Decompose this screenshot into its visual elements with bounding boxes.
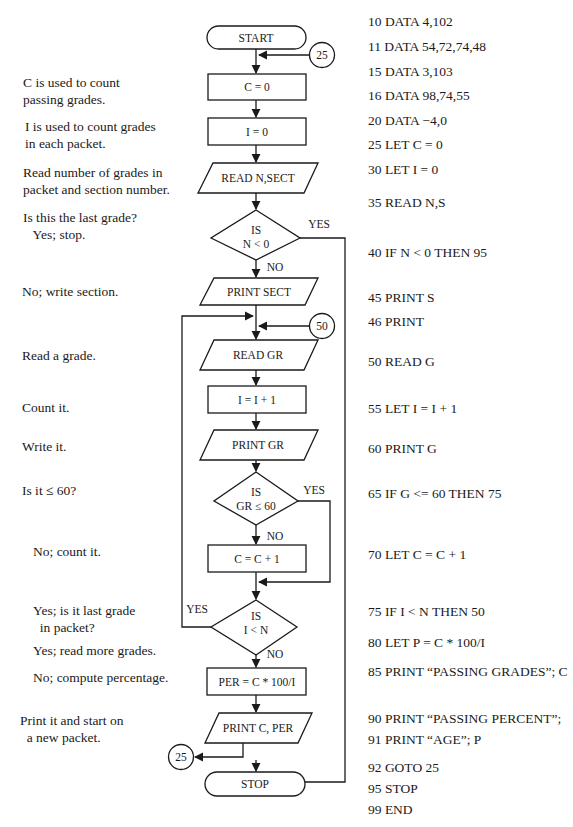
- program-line: 11 DATA 54,72,74,48: [368, 38, 486, 55]
- compute-per-label: PER = C * 100/I: [219, 676, 296, 688]
- program-line: 90 PRINT “PASSING PERCENT”;: [368, 710, 561, 727]
- program-line: 30 LET I = 0: [368, 161, 438, 178]
- annotation-last-in-packet: Yes; is it last grade in packet?: [33, 602, 135, 636]
- annotation-line: a new packet.: [20, 729, 124, 746]
- dec3-cond: I < N: [244, 624, 269, 636]
- program-line: 60 PRINT G: [368, 440, 437, 457]
- connector-50-label: 50: [316, 320, 328, 332]
- annotation-read-more: Yes; read more grades.: [33, 642, 156, 659]
- dec1-is: IS: [251, 224, 261, 236]
- program-line: 50 READ G: [368, 353, 435, 370]
- dec2-is: IS: [251, 486, 261, 498]
- annotation-i-purpose: I is used to count gradesin each packet.: [25, 118, 156, 152]
- annotation-read-n: Read number of grades inpacket and secti…: [23, 164, 170, 198]
- program-line: 46 PRINT: [368, 313, 424, 330]
- annotation-count-it: Count it.: [22, 399, 69, 416]
- annotation-line: packet and section number.: [23, 181, 170, 198]
- dec1-cond: N < 0: [243, 238, 270, 250]
- program-line: 20 DATA −4,0: [368, 112, 447, 129]
- program-line: 16 DATA 98,74,55: [368, 87, 470, 104]
- start-label: START: [239, 32, 274, 44]
- dec2-no: NO: [267, 530, 284, 542]
- incr-c-label: C = C + 1: [234, 553, 280, 565]
- annotation-line: Count it.: [22, 399, 69, 416]
- program-line: 15 DATA 3,103: [368, 63, 453, 80]
- program-line: 35 READ N,S: [368, 194, 446, 211]
- program-line: 25 LET C = 0: [368, 136, 443, 153]
- dec2-cond: GR ≤ 60: [236, 500, 276, 512]
- dec1-yes: YES: [308, 218, 330, 230]
- program-line: 40 IF N < 0 THEN 95: [368, 244, 487, 261]
- annotation-line: Yes; is it last grade: [33, 602, 135, 619]
- program-line: 92 GOTO 25: [368, 759, 439, 776]
- annotation-line: C is used to count: [23, 74, 120, 91]
- i-init-label: I = 0: [246, 126, 268, 138]
- program-line: 55 LET I = I + 1: [368, 400, 457, 417]
- annotation-is-le-60: Is it ≤ 60?: [22, 482, 76, 499]
- dec3-no: NO: [267, 648, 284, 660]
- annotation-line: Is it ≤ 60?: [22, 482, 76, 499]
- print-result-label: PRINT C, PER: [223, 722, 294, 735]
- connector-25-top-label: 25: [316, 49, 328, 61]
- annotation-read-grade: Read a grade.: [22, 347, 96, 364]
- annotation-line: Read number of grades in: [23, 164, 170, 181]
- annotation-print-restart: Print it and start on a new packet.: [20, 712, 124, 746]
- program-line: 85 PRINT “PASSING GRADES”; C: [368, 663, 568, 680]
- connector-25-bottom-label: 25: [175, 751, 187, 763]
- annotation-line: I is used to count grades: [25, 118, 156, 135]
- annotation-compute-pct: No; compute percentage.: [33, 669, 168, 686]
- annotation-line: in packet?: [33, 619, 135, 636]
- annotation-line: No; count it.: [33, 543, 101, 560]
- program-line: 75 IF I < N THEN 50: [368, 603, 485, 620]
- annotation-line: passing grades.: [23, 91, 120, 108]
- annotation-line: Is this the last grade?: [23, 209, 137, 226]
- annotation-c-purpose: C is used to countpassing grades.: [23, 74, 120, 108]
- annotation-line: Read a grade.: [22, 347, 96, 364]
- annotation-last-grade: Is this the last grade? Yes; stop.: [23, 209, 137, 243]
- annotation-no-count: No; count it.: [33, 543, 101, 560]
- annotation-write-it: Write it.: [22, 438, 66, 455]
- dec2-yes: YES: [303, 484, 325, 496]
- print-sect-label: PRINT SECT: [227, 286, 291, 298]
- dec3-is: IS: [251, 610, 261, 622]
- program-line: 95 STOP: [368, 780, 418, 797]
- annotation-line: No; write section.: [22, 283, 118, 300]
- program-line: 80 LET P = C * 100/I: [368, 634, 485, 651]
- dec3-yes: YES: [186, 603, 208, 615]
- annotation-line: No; compute percentage.: [33, 669, 168, 686]
- annotation-line: in each packet.: [25, 135, 156, 152]
- read-gr-label: READ GR: [233, 349, 283, 361]
- program-line: 45 PRINT S: [368, 289, 435, 306]
- program-line: 70 LET C = C + 1: [368, 546, 466, 563]
- annotation-write-section: No; write section.: [22, 283, 118, 300]
- incr-i-label: I = I + 1: [238, 394, 276, 406]
- annotation-line: Write it.: [22, 438, 66, 455]
- annotation-line: Yes; read more grades.: [33, 642, 156, 659]
- read-n-label: READ N,SECT: [221, 172, 294, 185]
- program-line: 65 IF G <= 60 THEN 75: [368, 485, 501, 502]
- annotation-line: Print it and start on: [20, 712, 124, 729]
- stop-label: STOP: [241, 778, 269, 790]
- annotation-line: Yes; stop.: [23, 226, 137, 243]
- program-line: 91 PRINT “AGE”; P: [368, 731, 481, 748]
- print-gr-label: PRINT GR: [232, 439, 284, 451]
- c-init-label: C = 0: [244, 81, 270, 93]
- decision-gr-le-60: [214, 472, 298, 525]
- program-line: 10 DATA 4,102: [368, 13, 453, 30]
- program-line: 99 END: [368, 801, 413, 818]
- dec1-no: NO: [267, 261, 284, 273]
